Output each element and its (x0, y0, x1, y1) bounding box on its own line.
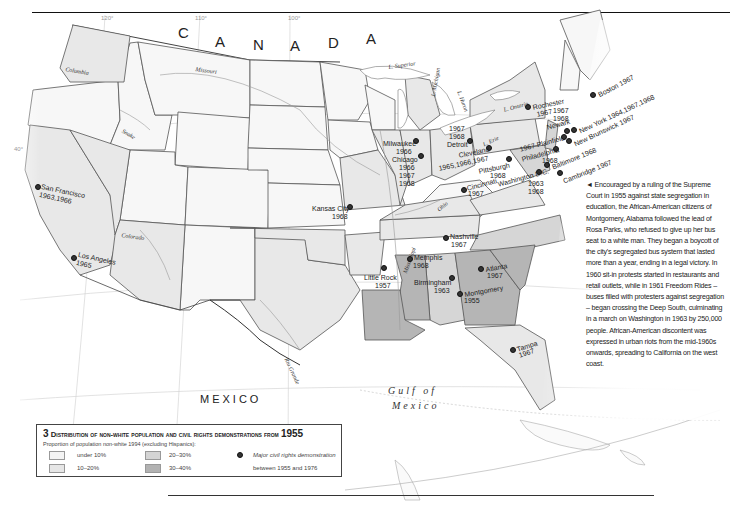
city-label: Milwaukee (383, 140, 416, 148)
city-label: Nashville (450, 233, 478, 241)
demonstration-marker-cambridge (557, 170, 563, 176)
demonstration-symbol-icon (237, 452, 243, 458)
city-label: Little Rock (364, 274, 397, 282)
lon-100-label: 100° (288, 14, 300, 22)
demonstration-marker-montgomery (457, 291, 463, 297)
canada-letter: N (253, 36, 264, 53)
canada-letter: A (290, 37, 300, 54)
year-label: 1963 (528, 180, 544, 188)
canada-letter: D (328, 34, 339, 51)
city-label: Detroit (447, 141, 468, 149)
lat-40-label: 40° (14, 145, 23, 153)
demonstration-marker-newark (564, 128, 570, 134)
demonstration-marker-tampa (510, 347, 516, 353)
city-label: Chicago (392, 156, 418, 164)
demonstration-marker-new-york (571, 127, 577, 133)
demonstration-marker-chicago (418, 153, 424, 159)
year-label: 1967 (468, 190, 484, 198)
canada-letter: A (366, 30, 376, 47)
legend-label: 30–40% (169, 465, 191, 471)
year-label: 1967 (553, 107, 569, 115)
year-label: 1967 (487, 272, 503, 280)
year-label: 1967 (451, 241, 467, 249)
demonstration-marker-detroit (467, 138, 473, 144)
legend-swatch-10-20 (49, 464, 65, 473)
mexico-label: MEXICO (200, 393, 261, 405)
legend-symbol-label: between 1955 and 1976 (253, 465, 317, 471)
demonstration-marker-little-rock (381, 265, 387, 271)
gulf-label-1: Gulf of (388, 385, 437, 396)
year-label: 1963 (434, 287, 450, 295)
year-label: 1967 (449, 125, 465, 133)
legend-swatch-under-10 (49, 451, 65, 460)
legend-box: 3 Distribution of non-white population a… (36, 424, 342, 477)
canada-letter: A (215, 33, 225, 50)
demonstration-marker-new-brunswick (566, 138, 572, 144)
legend-swatch-20-30 (145, 451, 161, 460)
bottom-rule (168, 495, 654, 496)
demonstration-marker-rochester (525, 104, 531, 110)
year-label: 1968 (399, 180, 415, 188)
year-label: 1967 (399, 172, 415, 180)
legend-label: under 10% (77, 452, 106, 458)
legend-label: 10–20% (77, 465, 99, 471)
year-label: 1968 (449, 133, 465, 141)
year-label: 1957 (375, 282, 391, 290)
year-label: 1968 (528, 188, 544, 196)
legend-symbol-label: Major civil rights demonstration (253, 452, 336, 458)
legend-label: 20–30% (169, 452, 191, 458)
year-label: 1968 (413, 262, 429, 270)
legend-title: 3 Distribution of non-white population a… (43, 428, 303, 439)
lon-120-label: 120° (101, 14, 113, 22)
city-label: Memphis (414, 254, 442, 262)
demonstration-marker-nashville (443, 235, 449, 241)
demonstration-marker-boston (590, 92, 596, 98)
gulf-label-2: Mexico (392, 400, 439, 411)
demonstration-marker-atlanta (478, 266, 484, 272)
year-label: 1966 (396, 148, 412, 156)
canada-letter: C (178, 24, 189, 41)
legend-subtitle: Proportion of population non-white 1994 … (43, 441, 196, 447)
year-label: 1966 (399, 164, 415, 172)
year-label: 1955 (464, 297, 480, 305)
map-caption: ◄ Encouraged by a ruling of the Supreme … (586, 180, 726, 370)
year-label: 1968 (332, 213, 348, 221)
city-label: Kansas City (312, 205, 349, 213)
legend-swatch-30-40 (145, 464, 161, 473)
city-label: Birmingham (414, 279, 451, 287)
lon-110-label: 110° (195, 14, 207, 22)
